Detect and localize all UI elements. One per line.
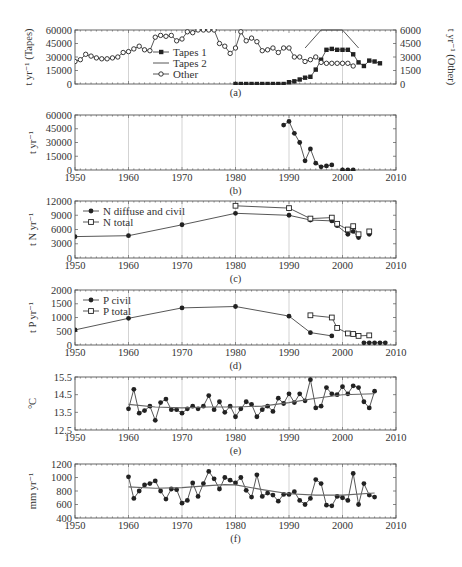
x-tick-label: 1960 [118,347,139,358]
data-point [372,389,377,394]
y-right-tick-label: 3000 [400,52,421,63]
data-point [351,229,356,234]
panel-caption: (a) [230,87,242,99]
data-point [271,493,276,498]
data-point [131,387,136,392]
data-point [356,334,361,339]
data-point [217,41,221,45]
x-tick-label: 2000 [332,347,353,358]
y-tick-label: 9000 [51,210,72,221]
data-point [164,34,168,38]
data-point [239,82,243,86]
data-point [324,163,329,168]
data-point [137,411,142,416]
data-point [255,40,259,44]
data-point [201,481,206,486]
data-point [265,82,269,86]
data-point [378,340,383,345]
data-point [271,46,275,50]
y-tick-label: 15000 [46,65,72,76]
data-point [260,494,265,499]
data-point [367,340,372,345]
data-point [308,313,313,318]
data-point [297,140,302,145]
y-tick-label: 1000 [51,472,72,483]
x-tick-label: 1990 [279,520,300,531]
data-point [297,391,302,396]
data-point [244,82,248,86]
y-tick-label: 13.5 [54,407,72,418]
legend-marker [89,309,94,314]
y-tick-label: 45000 [46,38,72,49]
data-point [335,221,340,226]
data-point [84,52,88,56]
panel-caption: (d) [229,360,242,372]
data-point [185,498,190,503]
data-point [335,61,339,65]
x-tick-label: 2010 [386,172,407,183]
data-point [329,334,334,339]
legend-marker [159,50,163,54]
legend-label: N total [103,216,133,228]
data-point [356,232,361,237]
x-tick-label: 1970 [172,172,193,183]
data-point [228,478,233,483]
multi-panel-figure: 01500030000450006000001500300045006000t … [0,0,462,567]
data-point [238,475,243,480]
data-point [356,385,361,390]
panel-caption: (b) [229,185,242,197]
y-tick-label: 3000 [51,238,72,249]
data-point [351,64,355,68]
legend-label: P total [103,305,131,317]
x-tick-label: 1980 [225,260,246,271]
data-point [137,489,142,494]
data-point [362,399,367,404]
data-point [212,28,216,32]
data-point [78,58,82,62]
data-point [244,39,248,43]
series-line [284,121,332,166]
x-tick-label: 1990 [279,172,300,183]
data-point [330,61,334,65]
panel-e: 12.513.514.515.5195019601970198019902000… [27,372,407,458]
x-tick-label: 1950 [65,347,86,358]
data-point [292,55,296,59]
data-point [276,82,280,86]
data-point [180,501,185,506]
x-tick-label: 1950 [65,172,86,183]
data-point [180,305,185,310]
y-axis-label: °C [27,398,38,409]
data-point [196,494,201,499]
data-point [303,76,307,80]
panel-caption: (e) [230,445,242,457]
data-point [345,498,350,503]
x-tick-label: 2010 [386,260,407,271]
data-point [308,147,313,152]
x-tick-label: 2010 [386,520,407,531]
data-point [303,59,307,63]
data-point [265,48,269,52]
data-point [126,474,131,479]
data-point [329,215,334,220]
y-tick-label: 15000 [46,151,72,162]
data-point [244,399,249,404]
data-point [345,391,350,396]
data-point [308,216,313,221]
data-point [153,35,157,39]
data-point [287,391,292,396]
data-point [180,411,185,416]
legend-label: Other [173,68,198,80]
data-point [345,227,350,232]
data-point [271,82,275,86]
data-point [330,47,334,51]
data-point [239,30,243,34]
data-point [233,211,238,216]
y-tick-label: 600 [56,499,72,510]
data-point [158,33,162,37]
data-point [356,60,360,64]
series-line [236,206,359,235]
data-point [110,56,114,60]
x-tick-label: 1990 [279,347,300,358]
data-point [255,82,259,86]
y-tick-label: 45000 [46,123,72,134]
